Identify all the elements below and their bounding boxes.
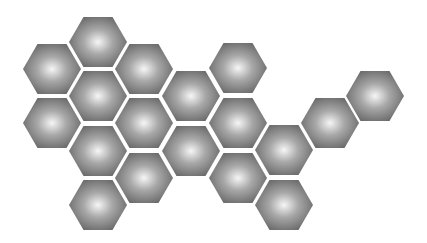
hexagon-tile	[69, 71, 127, 121]
hexagon-tile	[209, 43, 267, 93]
hexagon-tile	[301, 98, 359, 148]
hexagon-tile	[69, 17, 127, 67]
hexagon-tile	[23, 44, 81, 94]
hexagon-tile	[162, 71, 220, 121]
hexagon-tile	[162, 126, 220, 176]
hexagon-tile	[69, 180, 127, 230]
hexagon-tile	[255, 180, 313, 230]
hexagon-tile	[115, 153, 173, 203]
hexagon-tile	[23, 98, 81, 148]
hexagon-group	[23, 17, 404, 230]
hexagon-tile	[346, 71, 404, 121]
hexagon-tile	[209, 98, 267, 148]
hexagon-tile	[115, 44, 173, 94]
hexagon-tile	[255, 125, 313, 175]
hexagon-tile	[115, 98, 173, 148]
hexagon-mosaic	[0, 0, 427, 243]
hexagon-tile	[69, 126, 127, 176]
hexagon-tile	[209, 153, 267, 203]
